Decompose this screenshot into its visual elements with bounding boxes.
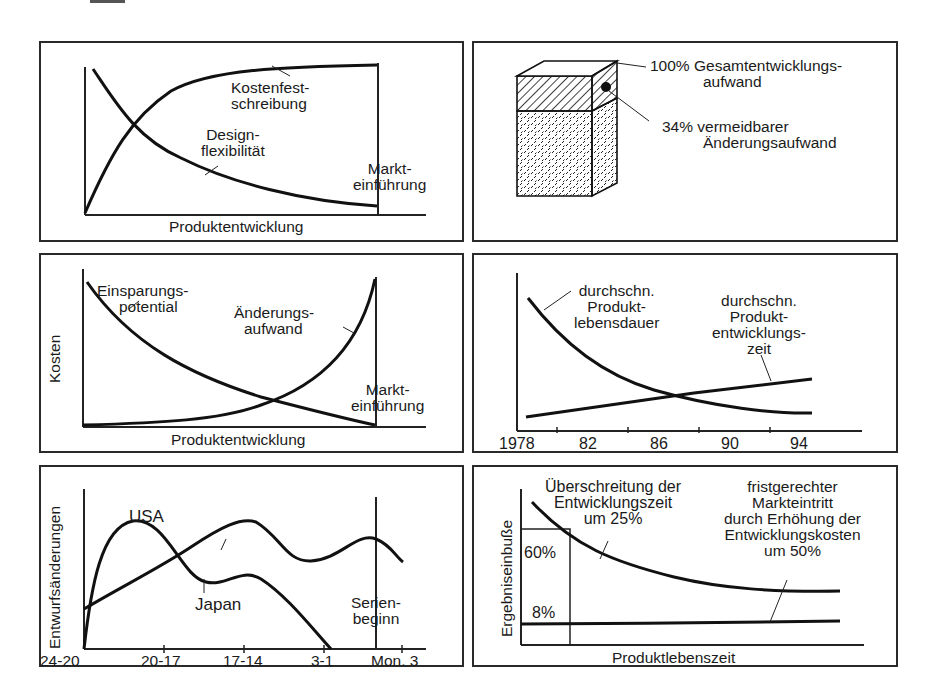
x-axis-label: Produktentwicklung bbox=[171, 432, 305, 448]
panel-design-changes: USA Japan Serien-beginn Entwurfsänderung… bbox=[39, 465, 464, 667]
y-axis-label: Ergebniseinbuße bbox=[498, 520, 516, 637]
label-ueberschreitung: Überschreitung derEntwicklungszeitum 25% bbox=[545, 479, 681, 527]
panel-development-effort: 100% Gesamtentwicklungs-aufwand 34% verm… bbox=[472, 41, 898, 242]
x-tick: 20-17 bbox=[141, 653, 181, 669]
x-tick: 90 bbox=[721, 436, 739, 452]
label-markteinfuehrung: Markt-einführung bbox=[353, 161, 426, 193]
label-lebensdauer: durchschn.Produkt-lebensdauer bbox=[574, 283, 659, 331]
label-designflexibilitaet: Design-flexibilität bbox=[201, 127, 265, 159]
label-aenderungsaufwand: Änderungs-aufwand bbox=[234, 305, 314, 337]
y-axis-label: Entwurfsänderungen bbox=[46, 506, 64, 649]
x-tick: 24-20 bbox=[40, 653, 80, 669]
value-8: 8% bbox=[532, 605, 555, 621]
x-tick: 17-14 bbox=[223, 653, 263, 669]
y-axis-label: Kosten bbox=[46, 335, 64, 383]
label-entwicklungszeit: durchschn.Produkt-entwicklungs-zeit bbox=[712, 293, 806, 357]
x-tick: 94 bbox=[790, 436, 808, 452]
label-einsparungspotential: Einsparungs-potential bbox=[97, 283, 188, 315]
label-markteinfuehrung: Markt-einführung bbox=[351, 382, 424, 414]
label-japan: Japan bbox=[195, 597, 241, 613]
panel-savings-change: Einsparungs-potential Änderungs-aufwand … bbox=[39, 253, 464, 453]
label-usa: USA bbox=[129, 509, 164, 525]
label-serienbeginn: Serien-beginn bbox=[351, 595, 401, 627]
chart-design-changes bbox=[41, 467, 466, 669]
value-60: 60% bbox=[524, 545, 556, 561]
x-tick: 3-1 bbox=[311, 653, 333, 669]
panel-cost-fixing: Kostenfest-schreibung Design-flexibilitä… bbox=[39, 41, 464, 242]
x-axis-label: Produktlebenszeit bbox=[612, 650, 735, 666]
top-bar-fragment bbox=[90, 0, 125, 3]
x-tick: Mon. 3 bbox=[371, 653, 418, 669]
label-total-effort: 100% Gesamtentwicklungs-aufwand bbox=[650, 58, 842, 90]
panel-lifetime-devtime: durchschn.Produkt-lebensdauer durchschn.… bbox=[472, 253, 898, 453]
label-kostenfestschreibung: Kostenfest-schreibung bbox=[231, 80, 309, 112]
label-fristgerecht: fristgerechterMarkteintrittdurch Erhöhun… bbox=[724, 479, 861, 559]
chart-lifetime-devtime bbox=[474, 255, 900, 455]
x-tick: 1978 bbox=[499, 436, 535, 452]
x-tick: 86 bbox=[650, 436, 668, 452]
panel-profit-loss: Überschreitung derEntwicklungszeitum 25%… bbox=[472, 465, 898, 667]
label-avoidable-effort: 34% vermeidbarerÄnderungsaufwand bbox=[662, 119, 837, 151]
x-axis-label: Produktentwicklung bbox=[169, 219, 303, 235]
x-tick: 82 bbox=[579, 436, 597, 452]
